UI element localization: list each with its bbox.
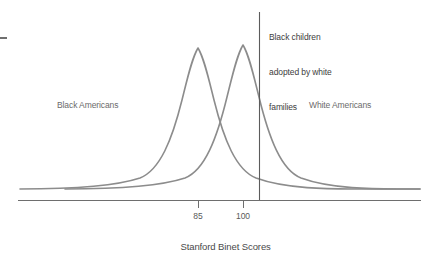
x-tick-label-100: 100: [228, 211, 258, 221]
scan-edge-artifact: [0, 37, 7, 39]
x-axis-title-text: Stanford Binet Scores: [180, 241, 270, 252]
bell-curve-chart: Black Americans White Americans Black ch…: [0, 0, 437, 257]
series-label-black-americans: Black Americans: [57, 100, 118, 111]
chart-plot-area: [0, 0, 437, 257]
x-tick-label-85: 85: [183, 211, 213, 221]
annotation-line-1: Black children: [269, 32, 364, 44]
annotation-text-block: Black children adopted by white families: [269, 9, 364, 137]
x-axis-title: Stanford Binet Scores: [0, 230, 437, 257]
annotation-line-2: adopted by white: [269, 67, 364, 79]
annotation-line-3: families: [269, 102, 364, 114]
